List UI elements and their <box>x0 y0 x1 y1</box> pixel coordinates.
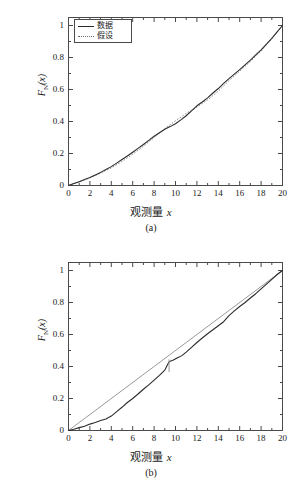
panel-a: 数据 假设 FN(x) 观测量 x (a) 02468101214161820 … <box>0 0 302 245</box>
x-tick-label: 6 <box>123 188 143 198</box>
x-tick-label: 18 <box>251 433 271 443</box>
x-tick-label: 8 <box>144 188 164 198</box>
x-tick-label: 14 <box>208 433 228 443</box>
series-data-a <box>69 26 283 186</box>
panel-caption-a: (a) <box>0 222 302 233</box>
legend-item-data: 数据 <box>78 21 113 31</box>
x-tick-label: 18 <box>251 188 271 198</box>
x-axis-label-b: 观测量 x <box>0 448 302 464</box>
x-tick-label: 10 <box>166 433 186 443</box>
y-tick-label: 0.8 <box>40 52 64 62</box>
x-tick-label: 0 <box>59 433 79 443</box>
axis-ticks-b <box>69 263 283 431</box>
plot-frame-b <box>69 263 283 431</box>
legend-label-hypothesis: 假设 <box>97 31 113 41</box>
y-tick-label: 0.4 <box>40 116 64 126</box>
x-tick-label: 8 <box>144 433 164 443</box>
y-tick-label: 0.2 <box>40 148 64 158</box>
legend-key-solid-icon <box>78 26 94 27</box>
x-tick-label: 16 <box>230 188 250 198</box>
x-tick-label: 16 <box>230 433 250 443</box>
y-tick-label: 1 <box>40 20 64 30</box>
x-tick-label: 4 <box>101 188 121 198</box>
x-tick-label: 0 <box>59 188 79 198</box>
x-tick-label: 14 <box>208 188 228 198</box>
legend-key-dotted-icon <box>78 36 94 37</box>
bottom-cutoff-text <box>0 486 302 491</box>
y-tick-label: 0.8 <box>40 297 64 307</box>
x-tick-label: 20 <box>273 433 293 443</box>
y-tick-label: 0 <box>40 180 64 190</box>
x-tick-label: 10 <box>166 188 186 198</box>
y-tick-label: 1 <box>40 265 64 275</box>
x-tick-label: 20 <box>273 188 293 198</box>
y-tick-label: 0.6 <box>40 329 64 339</box>
panel-caption-b: (b) <box>0 467 302 478</box>
x-tick-label: 12 <box>187 188 207 198</box>
x-tick-label: 12 <box>187 433 207 443</box>
x-axis-label-a: 观测量 x <box>0 203 302 219</box>
y-tick-label: 0.4 <box>40 361 64 371</box>
y-tick-label: 0.6 <box>40 84 64 94</box>
series-hypothesis-a <box>69 26 283 186</box>
y-tick-label: 0.2 <box>40 393 64 403</box>
x-tick-label: 4 <box>101 433 121 443</box>
series-hypothesis-b <box>69 271 283 431</box>
legend-a: 数据 假设 <box>74 19 132 43</box>
y-tick-label: 0 <box>40 425 64 435</box>
legend-label-data: 数据 <box>97 21 113 31</box>
x-tick-label: 6 <box>123 433 143 443</box>
x-tick-label: 2 <box>80 433 100 443</box>
x-tick-label: 2 <box>80 188 100 198</box>
legend-item-hypothesis: 假设 <box>78 31 113 41</box>
panel-b: FN(x) 观测量 x (b) 02468101214161820 00.20.… <box>0 245 302 490</box>
